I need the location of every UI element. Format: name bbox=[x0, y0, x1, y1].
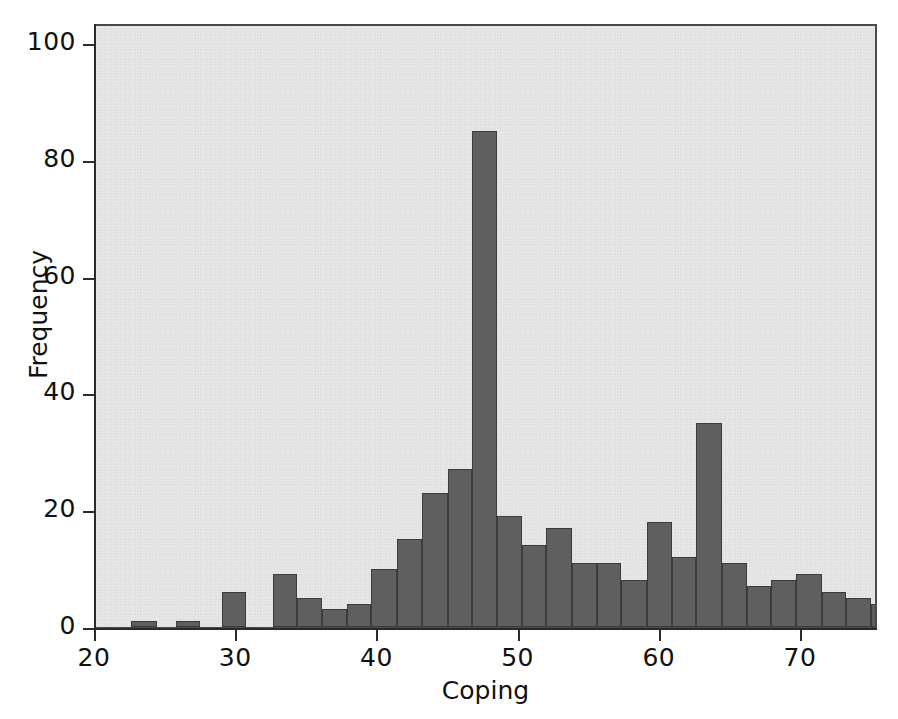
y-tick-mark bbox=[83, 628, 94, 630]
histogram-bar bbox=[722, 563, 747, 627]
histogram-bar bbox=[422, 493, 447, 627]
histogram-bar bbox=[747, 586, 771, 627]
histogram-bar bbox=[497, 516, 522, 627]
x-tick-mark bbox=[659, 630, 661, 641]
x-tick-mark bbox=[518, 630, 520, 641]
histogram-bar bbox=[871, 604, 877, 627]
y-axis-line bbox=[94, 24, 96, 630]
y-tick-mark bbox=[83, 161, 94, 163]
x-tick-label: 60 bbox=[624, 643, 694, 672]
x-tick-mark bbox=[235, 630, 237, 641]
y-tick-label: 20 bbox=[0, 494, 76, 523]
histogram-bar bbox=[522, 545, 546, 627]
histogram-bar bbox=[846, 598, 871, 627]
histogram-bar bbox=[572, 563, 597, 627]
histogram-bar bbox=[322, 609, 347, 627]
x-tick-mark bbox=[94, 630, 96, 641]
histogram-bar bbox=[597, 563, 621, 627]
histogram-figure: 203040506070 020406080100 Coping Frequen… bbox=[0, 0, 898, 719]
x-tick-mark bbox=[800, 630, 802, 641]
histogram-bar bbox=[131, 621, 156, 627]
y-axis-label: Frequency bbox=[24, 205, 53, 425]
histogram-bar bbox=[176, 621, 200, 627]
x-tick-mark bbox=[376, 630, 378, 641]
y-tick-label: 100 bbox=[0, 27, 76, 56]
y-tick-mark bbox=[83, 278, 94, 280]
histogram-bar bbox=[647, 522, 672, 627]
histogram-bar bbox=[297, 598, 322, 627]
histogram-bar bbox=[696, 423, 721, 627]
histogram-bar bbox=[222, 592, 246, 627]
y-tick-mark bbox=[83, 394, 94, 396]
x-tick-label: 20 bbox=[59, 643, 129, 672]
histogram-bar bbox=[621, 580, 646, 627]
y-tick-mark bbox=[83, 44, 94, 46]
x-tick-label: 30 bbox=[200, 643, 270, 672]
histogram-bar bbox=[546, 528, 571, 627]
x-tick-label: 50 bbox=[483, 643, 553, 672]
histogram-bar bbox=[822, 592, 846, 627]
y-tick-label: 0 bbox=[0, 611, 76, 640]
x-axis-label: Coping bbox=[94, 676, 877, 705]
plot-area bbox=[94, 24, 877, 629]
histogram-bar bbox=[672, 557, 696, 627]
histogram-bar bbox=[771, 580, 796, 627]
histogram-bar bbox=[273, 574, 297, 627]
histogram-bar bbox=[448, 469, 472, 627]
x-tick-label: 40 bbox=[341, 643, 411, 672]
y-tick-mark bbox=[83, 511, 94, 513]
y-tick-label: 80 bbox=[0, 144, 76, 173]
histogram-bar bbox=[397, 539, 422, 627]
histogram-bar bbox=[472, 131, 497, 627]
histogram-bar bbox=[347, 604, 371, 627]
x-axis-line bbox=[94, 628, 877, 630]
histogram-bar bbox=[796, 574, 821, 627]
histogram-bar bbox=[371, 569, 396, 627]
x-tick-label: 70 bbox=[765, 643, 835, 672]
